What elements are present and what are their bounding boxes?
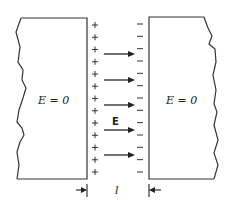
parallel-plate-diagram: E = 0 E = 0 E l [0, 0, 231, 200]
positive-charges [92, 22, 98, 175]
positive-charge-icon [92, 59, 98, 65]
positive-charge-icon [92, 108, 98, 114]
positive-charge-icon [92, 47, 98, 53]
positive-charge-icon [92, 132, 98, 138]
positive-charge-icon [92, 145, 98, 151]
field-arrow [104, 51, 135, 57]
positive-charge-icon [92, 71, 98, 77]
positive-charge-icon [92, 22, 98, 28]
gap-width-label: l [115, 184, 119, 197]
positive-charge-icon [92, 157, 98, 163]
positive-charge-icon [92, 120, 98, 126]
positive-charge-icon [92, 34, 98, 40]
positive-charge-icon [92, 169, 98, 175]
positive-charge-icon [92, 83, 98, 89]
right-region-field-label: E = 0 [165, 94, 197, 107]
electric-field-arrows [104, 51, 135, 158]
left-region-field-label: E = 0 [37, 94, 69, 107]
field-arrow [104, 127, 135, 133]
field-arrow [104, 152, 135, 158]
field-vector-label: E [112, 116, 119, 127]
positive-charge-icon [92, 96, 98, 102]
field-arrow [104, 102, 135, 108]
field-arrow [104, 77, 135, 83]
negative-charges [137, 24, 143, 172]
